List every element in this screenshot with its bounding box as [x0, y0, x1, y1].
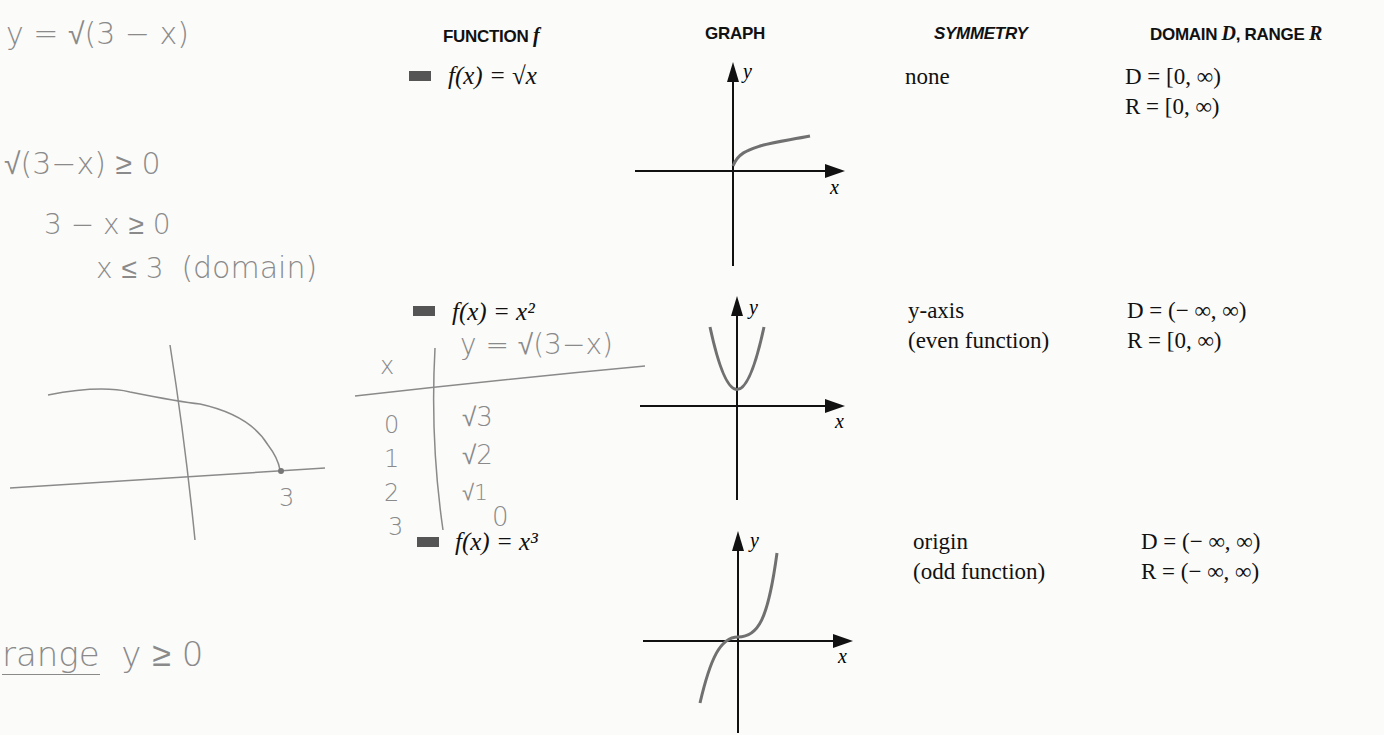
handwritten-step1: √(3−x) ≥ 0: [4, 146, 160, 181]
symmetry-line2: (odd function): [913, 557, 1045, 587]
table-x-cell: 3: [388, 510, 403, 544]
symmetry-origin: origin(odd function): [913, 527, 1045, 587]
row-bullet-icon: [409, 71, 431, 81]
handwritten-sketch: [0, 340, 340, 550]
symmetry-line1: origin: [913, 527, 1045, 557]
domain-value: D = [0, ∞): [1125, 62, 1221, 92]
symmetry-line2: (even function): [908, 326, 1049, 356]
header-domain-label: DOMAIN: [1150, 25, 1217, 44]
step3-note: (domain): [181, 250, 317, 285]
table-y-values: √3 √2 √1 0: [462, 398, 509, 536]
handwritten-step3: x ≤ 3 (domain): [96, 250, 317, 285]
graph-parabola: y x: [635, 292, 865, 502]
y-axis-label: y: [741, 60, 752, 83]
table-x-cell: 1: [384, 442, 403, 476]
header-graph: GRAPH: [705, 24, 765, 44]
header-range-label: , RANGE: [1236, 25, 1305, 44]
sketch-label-3: 3: [279, 484, 294, 512]
table-x-cell: 0: [384, 408, 403, 442]
table-y-cell: 0: [492, 498, 509, 536]
header-function-var: f: [533, 24, 539, 46]
handwritten-equation: y = √(3 − x): [6, 16, 189, 51]
range-value: R = (− ∞, ∞): [1141, 557, 1260, 587]
table-x-values: 0 1 2 3: [384, 408, 403, 544]
symmetry-none: none: [905, 62, 950, 92]
domain-value: D = (− ∞, ∞): [1127, 296, 1246, 326]
handwritten-step2: 3 − x ≥ 0: [44, 208, 171, 241]
table-y-cell: √2: [462, 436, 509, 474]
symmetry-y-axis: y-axis(even function): [908, 296, 1049, 356]
function-sqrt: f(x) = √x: [448, 62, 537, 90]
function-square: f(x) = x²: [452, 298, 535, 326]
x-axis-label: x: [837, 645, 847, 667]
domain-square: D = (− ∞, ∞)R = [0, ∞): [1127, 296, 1246, 356]
row-bullet-icon: [413, 306, 435, 316]
header-function-label: FUNCTION: [443, 27, 528, 46]
domain-cube: D = (− ∞, ∞)R = (− ∞, ∞): [1141, 527, 1260, 587]
header-symmetry: SYMMETRY: [934, 24, 1028, 44]
range-value: R = [0, ∞): [1125, 92, 1221, 122]
graph-cubic: y x: [640, 525, 870, 735]
header-function: FUNCTION f: [443, 24, 539, 47]
range-value: R = [0, ∞): [1127, 326, 1246, 356]
symmetry-line1: y-axis: [908, 296, 1049, 326]
range-word: range: [2, 634, 100, 675]
table-x-cell: 2: [384, 476, 403, 510]
y-axis-label: y: [747, 296, 758, 319]
graph-sqrt: y x: [630, 58, 860, 268]
y-axis-label: y: [748, 529, 759, 552]
table-y-cell: √3: [462, 398, 509, 436]
x-axis-label: x: [829, 176, 839, 198]
range-expr: y ≥ 0: [121, 634, 203, 674]
header-domain-var: D: [1222, 22, 1236, 44]
handwritten-range: range y ≥ 0: [2, 634, 203, 674]
domain-sqrt: D = [0, ∞)R = [0, ∞): [1125, 62, 1221, 122]
step3-expr: x ≤ 3: [96, 252, 164, 285]
domain-value: D = (− ∞, ∞): [1141, 527, 1260, 557]
header-range-var: R: [1309, 22, 1322, 44]
x-axis-label: x: [834, 410, 844, 432]
header-domain-range: DOMAIN D, RANGE R: [1150, 22, 1322, 45]
